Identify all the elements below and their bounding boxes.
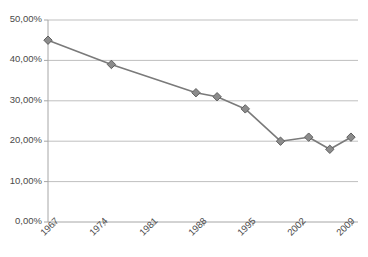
y-axis-ticks bbox=[44, 20, 48, 222]
gridlines bbox=[48, 20, 358, 182]
y-tick-label: 0,00% bbox=[0, 215, 42, 226]
data-point-marker bbox=[107, 60, 115, 68]
series-markers bbox=[44, 36, 355, 153]
data-point-marker bbox=[44, 36, 52, 44]
data-point-marker bbox=[347, 133, 355, 141]
chart-container: 0,00%10,00%20,00%30,00%40,00%50,00% 1967… bbox=[0, 0, 368, 257]
axes bbox=[48, 20, 358, 222]
data-point-marker bbox=[326, 145, 334, 153]
y-tick-label: 10,00% bbox=[0, 175, 42, 186]
data-point-marker bbox=[304, 133, 312, 141]
y-tick-label: 20,00% bbox=[0, 134, 42, 145]
y-tick-label: 50,00% bbox=[0, 13, 42, 24]
data-point-marker bbox=[192, 89, 200, 97]
y-tick-label: 30,00% bbox=[0, 94, 42, 105]
series-line bbox=[48, 40, 351, 149]
data-point-marker bbox=[213, 93, 221, 101]
y-tick-label: 40,00% bbox=[0, 53, 42, 64]
